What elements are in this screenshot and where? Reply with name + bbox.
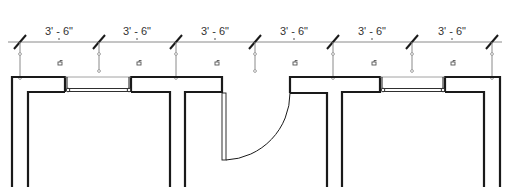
lock-icon[interactable] bbox=[137, 61, 142, 66]
grip-dot[interactable] bbox=[98, 53, 101, 56]
door[interactable] bbox=[222, 93, 290, 160]
text-grip-dot[interactable] bbox=[58, 38, 60, 40]
wall-segment-inner[interactable] bbox=[131, 92, 170, 187]
dimension-label[interactable]: 3' - 6" bbox=[438, 25, 466, 37]
wall-right-outer[interactable] bbox=[445, 77, 500, 187]
text-grip-dot[interactable] bbox=[214, 38, 216, 40]
wall-right-inner[interactable] bbox=[445, 92, 484, 187]
lock-icon[interactable] bbox=[372, 61, 377, 66]
text-grip-dot[interactable] bbox=[451, 38, 453, 40]
window-left[interactable] bbox=[65, 77, 131, 92]
wall-segment[interactable] bbox=[131, 77, 222, 187]
dimension-label[interactable]: 3' - 6" bbox=[201, 25, 229, 37]
dimension-label[interactable]: 3' - 6" bbox=[358, 25, 386, 37]
dimension-label[interactable]: 3' - 6" bbox=[280, 25, 308, 37]
window-right[interactable] bbox=[380, 77, 445, 92]
label-grips bbox=[58, 38, 453, 40]
dimension-label[interactable]: 3' - 6" bbox=[45, 25, 73, 37]
text-grip-dot[interactable] bbox=[136, 38, 138, 40]
walls-left-unit bbox=[12, 77, 222, 187]
wall-segment-inner[interactable] bbox=[290, 93, 327, 187]
grip-dot[interactable] bbox=[98, 70, 101, 73]
lock-icons bbox=[58, 61, 456, 66]
wall-left-outer[interactable] bbox=[12, 77, 65, 187]
wall-left-inner[interactable] bbox=[28, 92, 65, 187]
grip-dot[interactable] bbox=[491, 53, 494, 56]
grip-dot[interactable] bbox=[175, 53, 178, 56]
lock-icon[interactable] bbox=[215, 61, 220, 66]
lock-icon[interactable] bbox=[293, 61, 298, 66]
door-leaf[interactable] bbox=[222, 93, 226, 160]
witness-grips bbox=[19, 53, 494, 80]
grip-dot[interactable] bbox=[19, 53, 22, 56]
lock-icon[interactable] bbox=[451, 61, 456, 66]
door-swing-arc bbox=[226, 93, 290, 160]
grip-dot[interactable] bbox=[332, 53, 335, 56]
floor-plan-canvas: 3' - 6" 3' - 6" 3' - 6" 3' - 6" 3' - 6" … bbox=[0, 0, 510, 187]
lock-icon[interactable] bbox=[58, 61, 63, 66]
grip-dot[interactable] bbox=[254, 53, 257, 56]
grip-dot[interactable] bbox=[411, 70, 414, 73]
text-grip-dot[interactable] bbox=[293, 38, 295, 40]
text-grip-dot[interactable] bbox=[371, 38, 373, 40]
grip-dot[interactable] bbox=[254, 70, 257, 73]
walls-right-unit bbox=[290, 77, 500, 187]
witness-lines bbox=[20, 42, 492, 78]
dimension-label[interactable]: 3' - 6" bbox=[123, 25, 151, 37]
grip-dot[interactable] bbox=[411, 53, 414, 56]
